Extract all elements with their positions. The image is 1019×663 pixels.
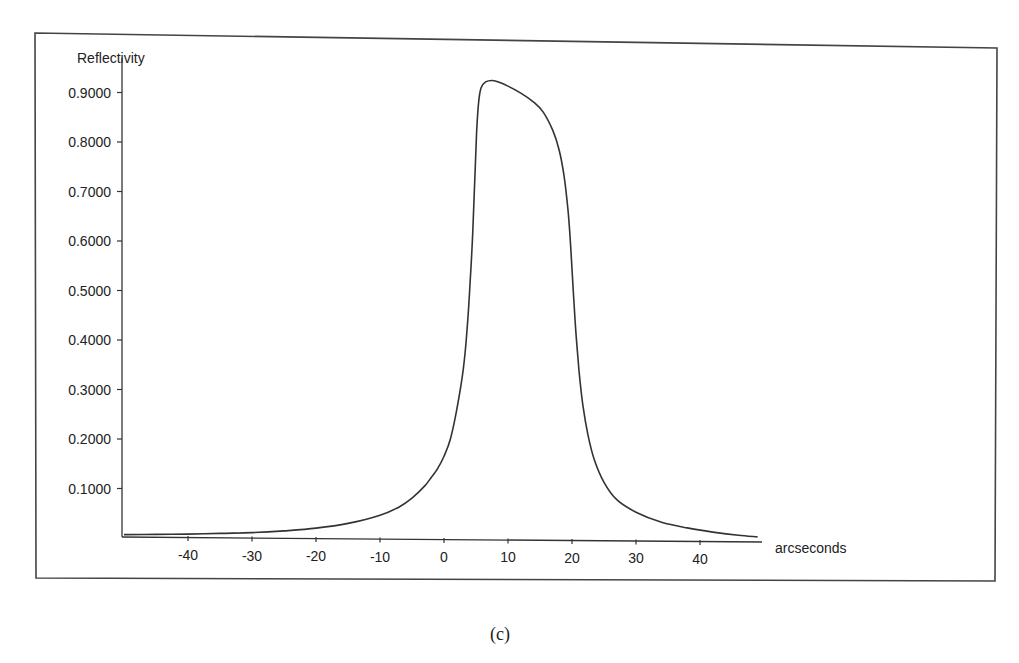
y-tick-label: 0.4000 (68, 332, 111, 348)
x-tick-label: 30 (628, 550, 644, 566)
y-tick-label: 0.7000 (68, 184, 111, 200)
y-tick-label: 0.3000 (68, 382, 111, 398)
y-axis-title: Reflectivity (77, 50, 145, 66)
x-tick-label: -30 (242, 548, 262, 564)
reflectivity-curve (124, 81, 758, 537)
x-axis-title: arcseconds (775, 540, 847, 556)
x-tick-label: -20 (306, 548, 326, 564)
y-axis-ticks: 0.10000.20000.30000.40000.50000.60000.70… (68, 85, 122, 497)
y-tick-label: 0.1000 (68, 481, 111, 497)
y-tick-label: 0.8000 (68, 134, 111, 150)
x-tick-label: 20 (564, 550, 580, 566)
y-tick-label: 0.2000 (68, 431, 111, 447)
y-tick-label: 0.9000 (68, 85, 111, 101)
y-tick-label: 0.5000 (68, 283, 111, 299)
x-tick-label: 10 (500, 549, 516, 565)
x-tick-label: -40 (178, 547, 198, 563)
figure-caption: (c) (490, 624, 510, 645)
x-tick-label: -10 (370, 549, 390, 565)
y-tick-label: 0.6000 (68, 233, 111, 249)
x-tick-label: 0 (440, 549, 448, 565)
chart-frame (35, 33, 997, 581)
x-axis (122, 537, 762, 542)
chart: Reflectivity 0.10000.20000.30000.40000.5… (0, 0, 1019, 663)
x-tick-label: 40 (692, 551, 708, 567)
